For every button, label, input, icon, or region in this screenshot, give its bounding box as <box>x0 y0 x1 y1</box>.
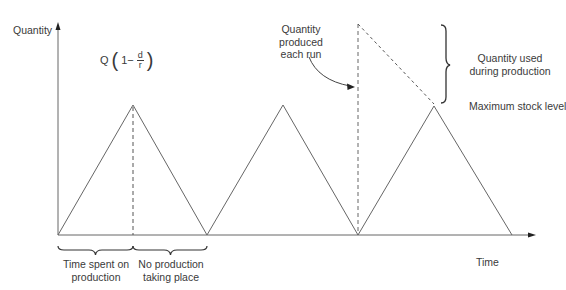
quantity-used-line-1: Quantity used <box>460 52 560 65</box>
y-axis-arrow-icon <box>56 22 61 30</box>
production-time-label: Time spent on production <box>58 258 134 283</box>
production-time-line-2: production <box>58 271 134 284</box>
no-production-line-2: taking place <box>133 271 209 284</box>
quantity-produced-line-3: each run <box>270 48 332 61</box>
no-production-brace <box>133 246 207 255</box>
quantity-used-brace <box>441 25 450 103</box>
production-time-line-1: Time spent on <box>58 258 134 271</box>
no-production-label: No production taking place <box>133 258 209 283</box>
y-axis-label: Quantity <box>13 24 52 37</box>
quantity-produced-line-2: produced <box>270 36 332 49</box>
quantity-produced-label: Quantity produced each run <box>270 23 332 61</box>
quantity-produced-line-1: Quantity <box>270 23 332 36</box>
max-stock-formula: Q ( 1− d r ) <box>100 50 153 70</box>
formula-close-paren: ) <box>147 50 154 70</box>
quantity-used-label: Quantity used during production <box>460 52 560 77</box>
formula-open-paren: ( <box>112 50 119 70</box>
max-stock-label: Maximum stock level <box>469 100 566 113</box>
curved-arrow-head-icon <box>347 84 355 91</box>
formula-fraction: d r <box>137 51 144 70</box>
usage-dashed-line <box>358 24 434 104</box>
production-time-brace <box>58 246 133 255</box>
stock-level-line <box>58 105 512 235</box>
x-axis-label: Time <box>476 256 499 269</box>
formula-numerator: d <box>137 51 144 61</box>
formula-one-minus: 1− <box>121 54 134 66</box>
no-production-line-1: No production <box>133 258 209 271</box>
x-axis-arrow-icon <box>528 233 536 238</box>
formula-q: Q <box>100 54 109 66</box>
quantity-used-line-2: during production <box>460 65 560 78</box>
formula-denominator: r <box>139 61 142 70</box>
curved-arrow <box>309 57 350 86</box>
